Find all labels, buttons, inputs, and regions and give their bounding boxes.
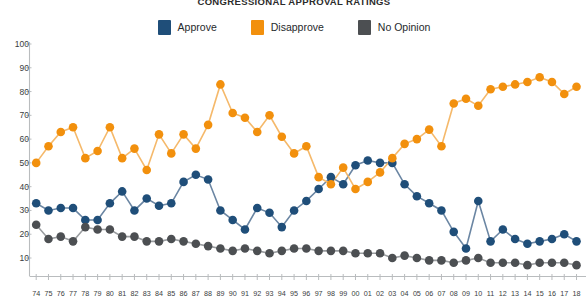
y-axis-label: 20 — [5, 229, 29, 239]
data-point — [425, 256, 434, 265]
data-point — [437, 206, 446, 215]
data-point — [130, 144, 139, 153]
data-point — [106, 225, 115, 234]
data-point — [400, 180, 409, 189]
data-point — [548, 235, 557, 244]
data-point — [204, 242, 213, 251]
data-point — [216, 206, 225, 215]
data-point — [241, 225, 250, 234]
data-point — [192, 239, 201, 248]
data-point — [474, 197, 483, 206]
data-point — [265, 111, 274, 120]
data-point — [437, 256, 446, 265]
data-point — [486, 258, 495, 267]
data-point — [302, 244, 311, 253]
data-point — [204, 121, 213, 130]
data-point — [413, 192, 422, 201]
data-point — [474, 254, 483, 263]
data-point — [228, 247, 237, 256]
data-point — [413, 254, 422, 263]
data-point — [523, 261, 532, 270]
data-point — [572, 83, 581, 92]
y-axis-label: 60 — [5, 134, 29, 144]
data-point — [253, 204, 262, 213]
series-markers-disapprove — [32, 73, 581, 193]
data-point — [44, 235, 53, 244]
data-point — [142, 237, 151, 246]
data-point — [314, 173, 323, 182]
data-point — [81, 154, 90, 163]
data-point — [278, 247, 287, 256]
plot-area — [0, 0, 588, 304]
data-point — [339, 247, 348, 256]
data-point — [462, 244, 471, 253]
data-point — [327, 247, 336, 256]
data-point — [437, 142, 446, 151]
y-axis-label: 40 — [5, 182, 29, 192]
data-point — [56, 128, 65, 137]
chart-container: CONGRESSIONAL APPROVAL RATINGS Approve D… — [0, 0, 588, 304]
data-point — [32, 220, 41, 229]
data-point — [253, 247, 262, 256]
data-point — [425, 125, 434, 134]
data-point — [339, 180, 348, 189]
data-point — [192, 170, 201, 179]
data-point — [363, 156, 372, 165]
data-point — [351, 249, 360, 258]
data-point — [400, 251, 409, 260]
data-point — [499, 258, 508, 267]
data-point — [339, 163, 348, 172]
data-point — [302, 197, 311, 206]
data-point — [548, 258, 557, 267]
data-point — [327, 180, 336, 189]
data-point — [388, 254, 397, 263]
data-point — [192, 144, 201, 153]
data-point — [130, 206, 139, 215]
data-point — [511, 80, 520, 89]
series-markers-approve — [32, 156, 581, 253]
data-point — [32, 159, 41, 168]
data-point — [118, 232, 127, 241]
data-point — [560, 258, 569, 267]
data-point — [44, 142, 53, 151]
data-point — [241, 244, 250, 253]
data-point — [241, 113, 250, 122]
data-point — [69, 237, 78, 246]
data-point — [400, 140, 409, 149]
y-axis-label: 80 — [5, 87, 29, 97]
data-point — [56, 232, 65, 241]
data-point — [523, 239, 532, 248]
data-point — [44, 206, 53, 215]
data-point — [118, 187, 127, 196]
data-point — [179, 178, 188, 187]
data-point — [216, 80, 225, 89]
data-point — [511, 235, 520, 244]
y-axis-label: 30 — [5, 205, 29, 215]
data-point — [32, 199, 41, 208]
data-point — [413, 135, 422, 144]
data-point — [388, 154, 397, 163]
data-point — [560, 230, 569, 239]
data-point — [535, 258, 544, 267]
y-axis-label: 90 — [5, 63, 29, 73]
data-point — [474, 102, 483, 111]
data-point — [265, 209, 274, 218]
data-point — [363, 178, 372, 187]
data-point — [376, 168, 385, 177]
data-point — [535, 237, 544, 246]
y-axis-label: 50 — [5, 158, 29, 168]
data-point — [155, 201, 164, 210]
data-point — [253, 128, 262, 137]
x-axis-label: 18 — [570, 289, 584, 298]
data-point — [302, 142, 311, 151]
data-point — [216, 244, 225, 253]
data-point — [155, 237, 164, 246]
data-point — [572, 261, 581, 270]
data-point — [363, 249, 372, 258]
data-point — [290, 244, 299, 253]
series-line-disapprove — [36, 77, 576, 189]
data-point — [142, 194, 151, 203]
data-point — [511, 258, 520, 267]
data-point — [314, 247, 323, 256]
data-point — [486, 237, 495, 246]
